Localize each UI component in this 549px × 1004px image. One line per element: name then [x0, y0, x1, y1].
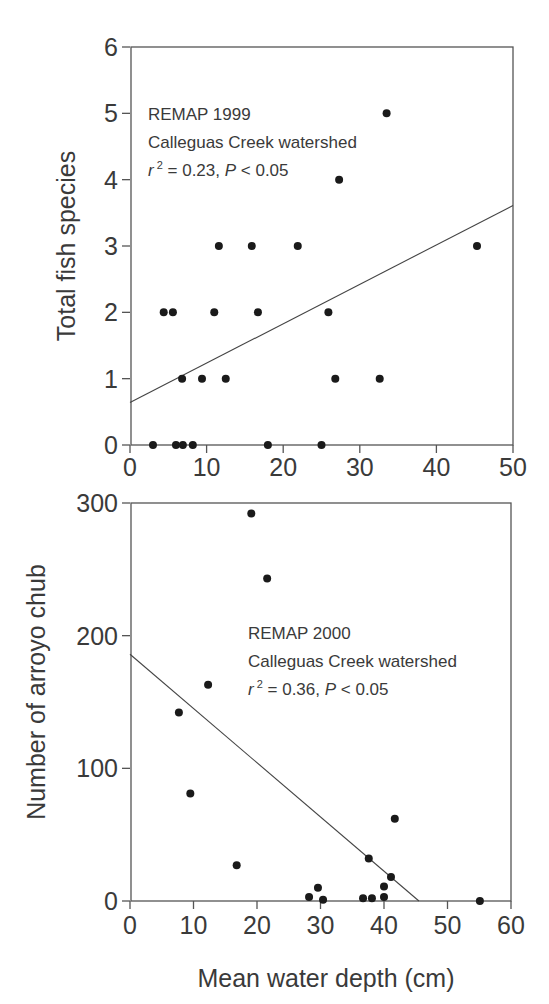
r-symbol: r: [248, 680, 255, 699]
p-symbol: P: [225, 161, 237, 180]
y-tick-label: 200: [76, 622, 118, 650]
r-symbol: r: [148, 161, 155, 180]
data-point: [380, 882, 388, 890]
top-regression-line: [130, 206, 513, 403]
data-point: [263, 575, 271, 583]
data-point: [391, 815, 399, 823]
bottom-data-points: [175, 510, 484, 905]
data-point: [318, 441, 326, 449]
top-annotation-stats: r2 = 0.23, P < 0.05: [148, 159, 289, 180]
data-point: [314, 884, 322, 892]
data-point: [305, 893, 313, 901]
bottom-x-axis-title: Mean water depth (cm): [197, 964, 454, 992]
data-point: [179, 441, 187, 449]
data-point: [169, 308, 177, 316]
data-point: [189, 441, 197, 449]
x-tick-label: 10: [193, 453, 221, 481]
bottom-y-axis-title: Number of arroyo chub: [22, 564, 50, 820]
data-point: [359, 894, 367, 902]
data-point: [335, 176, 343, 184]
data-point: [476, 897, 484, 905]
p-value: < 0.05: [336, 680, 388, 699]
top-y-axis-title: Total fish species: [52, 151, 80, 341]
data-point: [376, 375, 384, 383]
data-point: [204, 681, 212, 689]
x-tick-label: 50: [499, 453, 527, 481]
top-annotation-line2: Calleguas Creek watershed: [148, 133, 357, 152]
bottom-tick-labels: 01020304050600100200300: [76, 489, 525, 939]
data-point: [248, 242, 256, 250]
x-tick-label: 0: [123, 911, 137, 939]
data-point: [215, 242, 223, 250]
data-point: [210, 308, 218, 316]
data-point: [222, 375, 230, 383]
y-tick-label: 100: [76, 754, 118, 782]
bottom-annotation-line2: Calleguas Creek watershed: [248, 652, 457, 671]
data-point: [380, 893, 388, 901]
y-tick-label: 6: [104, 33, 118, 61]
y-tick-label: 4: [104, 166, 118, 194]
x-tick-label: 30: [307, 911, 335, 939]
x-tick-label: 40: [370, 911, 398, 939]
data-point: [172, 441, 180, 449]
data-point: [473, 242, 481, 250]
bottom-axis-ticks: [122, 503, 511, 909]
data-point: [178, 375, 186, 383]
p-symbol: P: [325, 680, 337, 699]
data-point: [254, 308, 262, 316]
y-tick-label: 5: [104, 99, 118, 127]
top-tick-labels: 010203040500123456: [104, 33, 527, 481]
data-point: [149, 441, 157, 449]
data-point: [324, 308, 332, 316]
y-tick-label: 1: [104, 365, 118, 393]
bottom-annotation-stats: r2 = 0.36, P < 0.05: [248, 678, 389, 699]
x-tick-label: 10: [180, 911, 208, 939]
top-scatter-panel: 010203040500123456 Total fish species RE…: [52, 33, 527, 481]
x-tick-label: 30: [346, 453, 374, 481]
x-tick-label: 20: [243, 911, 271, 939]
y-tick-label: 3: [104, 232, 118, 260]
y-tick-label: 2: [104, 298, 118, 326]
data-point: [247, 510, 255, 518]
scatter-figure: 010203040500123456 Total fish species RE…: [0, 0, 549, 1004]
r2-value: = 0.23,: [163, 161, 225, 180]
y-tick-label: 0: [104, 887, 118, 915]
data-point: [198, 375, 206, 383]
data-point: [365, 855, 373, 863]
data-point: [294, 242, 302, 250]
data-point: [383, 109, 391, 117]
p-value: < 0.05: [236, 161, 288, 180]
y-tick-label: 0: [104, 431, 118, 459]
x-tick-label: 20: [269, 453, 297, 481]
x-tick-label: 60: [497, 911, 525, 939]
data-point: [264, 441, 272, 449]
data-point: [186, 790, 194, 798]
data-point: [387, 873, 395, 881]
data-point: [368, 894, 376, 902]
data-point: [160, 308, 168, 316]
top-annotation-line1: REMAP 1999: [148, 105, 251, 124]
data-point: [319, 896, 327, 904]
x-tick-label: 50: [434, 911, 462, 939]
bottom-scatter-panel: 01020304050600100200300 Number of arroyo…: [22, 489, 525, 992]
x-tick-label: 0: [123, 453, 137, 481]
bottom-annotation-line1: REMAP 2000: [248, 624, 351, 643]
y-tick-label: 300: [76, 489, 118, 517]
data-point: [175, 709, 183, 717]
bottom-plot-frame: [131, 503, 511, 901]
r2-value: = 0.36,: [263, 680, 325, 699]
x-tick-label: 40: [422, 453, 450, 481]
data-point: [233, 861, 241, 869]
data-point: [331, 375, 339, 383]
